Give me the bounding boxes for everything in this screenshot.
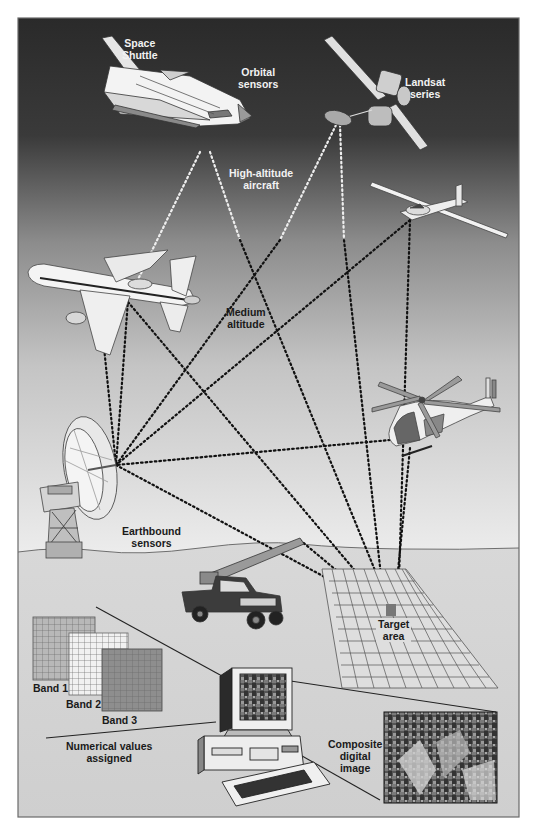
label-band-1: Band 1 [33, 682, 68, 694]
label-medium-altitude: Medium altitude [226, 306, 266, 330]
label-band-2: Band 2 [66, 698, 101, 710]
label-target-area: Target area [376, 618, 411, 642]
label-landsat-series: Landsat series [405, 76, 445, 100]
label-numerical-values-assigned: Numerical values assigned [66, 740, 152, 764]
label-orbital-sensors: Orbital sensors [238, 66, 278, 90]
composite-digital-image [384, 712, 497, 803]
label-composite-digital-image: Composite digital image [328, 738, 382, 774]
label-band-3: Band 3 [102, 714, 137, 726]
label-high-altitude-aircraft: High-altitude aircraft [229, 167, 293, 191]
label-space-shuttle: Space Shuttle [122, 37, 158, 61]
label-earthbound-sensors: Earthbound sensors [122, 525, 181, 549]
band-3-grid [102, 649, 162, 711]
